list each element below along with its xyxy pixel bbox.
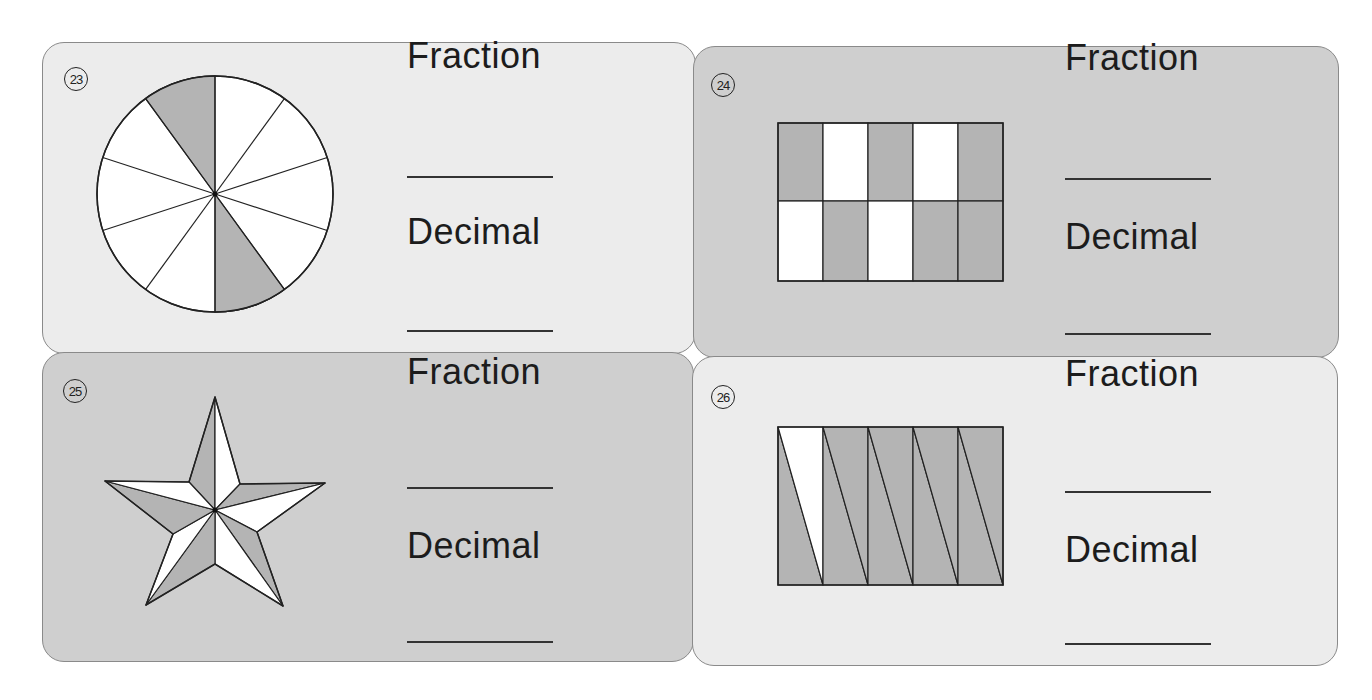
triangle-grid-figure xyxy=(778,427,1003,585)
star-figure xyxy=(93,388,333,618)
problem-number-26: 26 xyxy=(711,385,735,409)
decimal-label: Decimal xyxy=(407,211,541,253)
problem-number-23: 23 xyxy=(64,67,88,91)
decimal-answer-line[interactable] xyxy=(407,330,553,332)
grid-figure xyxy=(778,123,1003,281)
problem-card-26: 26 Fraction Decimal xyxy=(692,356,1338,666)
problem-card-23: 23 Fraction Decimal xyxy=(42,42,696,354)
decimal-label: Decimal xyxy=(1065,529,1199,571)
decimal-answer-line[interactable] xyxy=(407,641,553,643)
fraction-label: Fraction xyxy=(1065,353,1199,395)
fraction-answer-line[interactable] xyxy=(1065,491,1211,493)
problem-card-25: 25 Fraction Decimal xyxy=(42,352,694,662)
fraction-label: Fraction xyxy=(1065,37,1199,79)
fraction-answer-line[interactable] xyxy=(407,487,553,489)
circle-figure xyxy=(95,74,335,314)
fraction-label: Fraction xyxy=(407,351,541,393)
fraction-label: Fraction xyxy=(407,35,541,77)
decimal-answer-line[interactable] xyxy=(1065,643,1211,645)
decimal-label: Decimal xyxy=(407,525,541,567)
problem-card-24: 24 Fraction Decimal xyxy=(693,46,1339,358)
decimal-answer-line[interactable] xyxy=(1065,333,1211,335)
decimal-label: Decimal xyxy=(1065,216,1199,258)
fraction-answer-line[interactable] xyxy=(407,176,553,178)
fraction-answer-line[interactable] xyxy=(1065,178,1211,180)
problem-number-24: 24 xyxy=(711,73,735,97)
problem-number-25: 25 xyxy=(63,379,87,403)
